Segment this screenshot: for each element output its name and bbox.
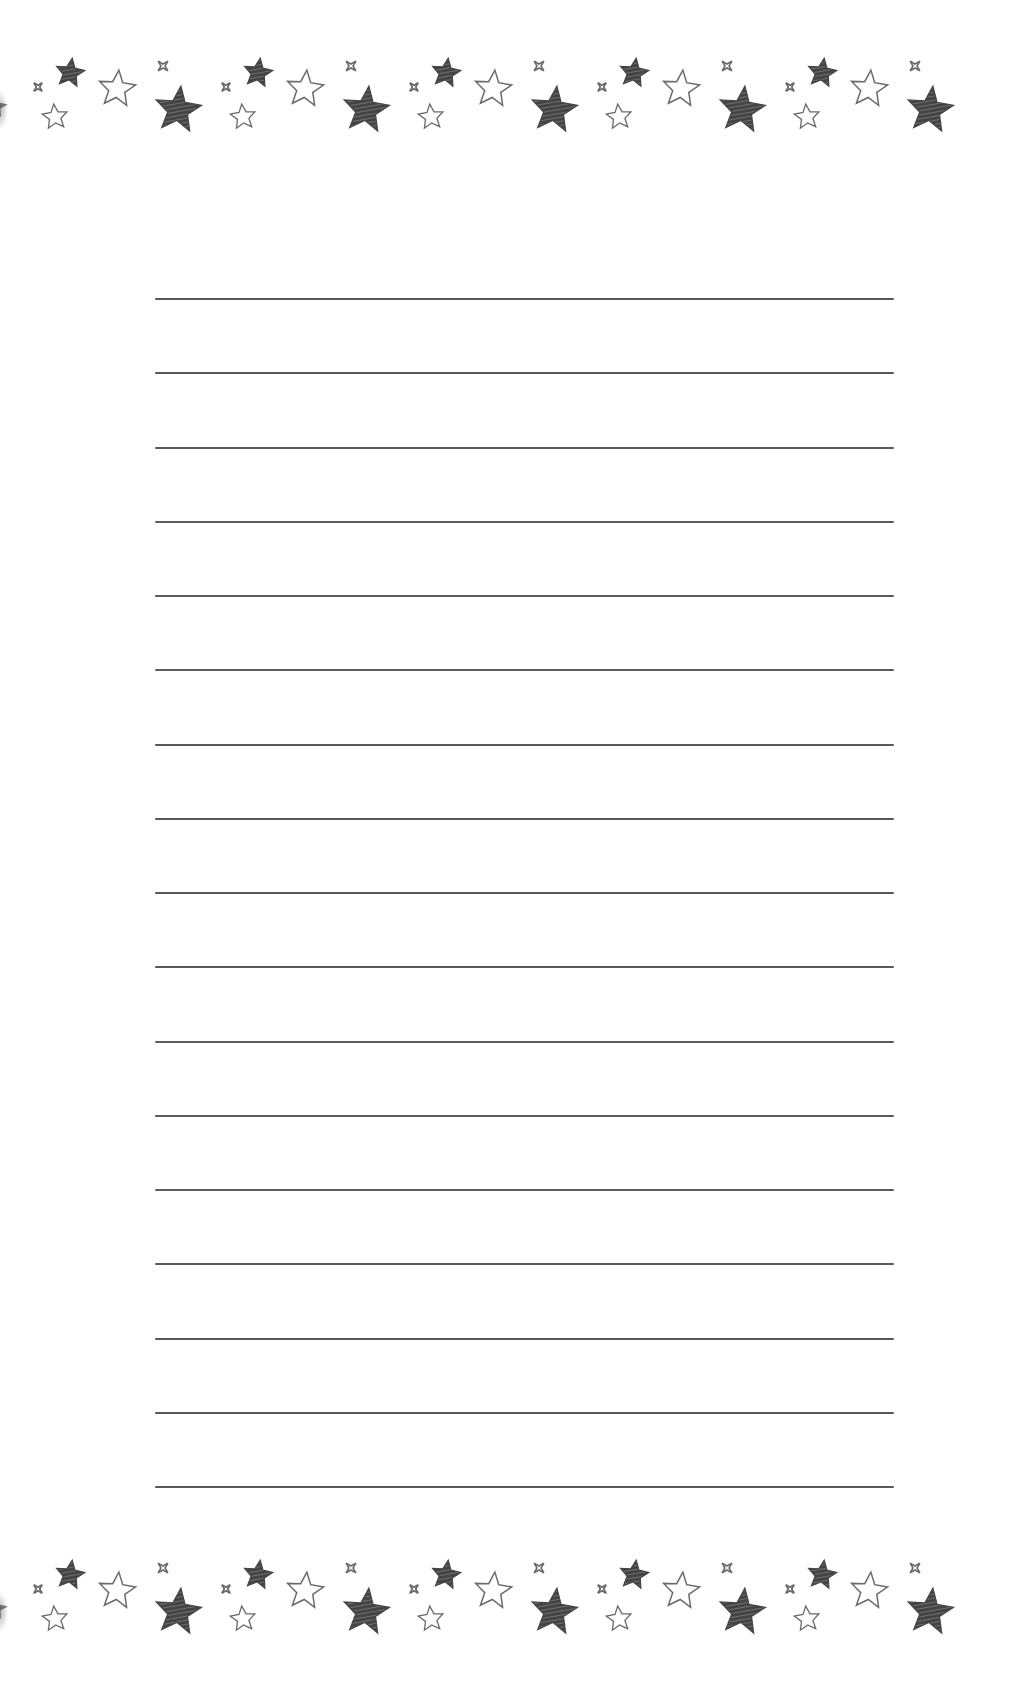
- large-filled-star-icon: [908, 1588, 953, 1633]
- writing-line: [155, 372, 894, 374]
- sparkle-icon: [222, 1585, 230, 1593]
- outline-star-icon: [230, 1606, 255, 1630]
- outline-star-icon: [476, 1572, 512, 1607]
- sparkle-icon: [34, 1585, 42, 1593]
- outline-star-icon: [852, 1572, 888, 1607]
- sparkle-icon: [158, 1563, 168, 1573]
- outline-star-icon: [606, 1606, 631, 1630]
- large-filled-star-icon: [156, 1588, 201, 1633]
- writing-line: [155, 966, 894, 968]
- filled-star-icon: [57, 1560, 85, 1588]
- writing-line: [155, 1041, 894, 1043]
- outline-star-icon: [100, 1572, 136, 1607]
- filled-star-icon: [433, 1560, 461, 1588]
- filled-star-icon: [245, 1560, 273, 1588]
- sparkle-icon: [346, 1563, 356, 1573]
- writing-line: [155, 298, 894, 300]
- sparkle-icon: [534, 1563, 544, 1573]
- writing-line: [155, 744, 894, 746]
- writing-line: [155, 1263, 894, 1265]
- writing-line: [155, 1338, 894, 1340]
- filled-star-icon: [621, 1560, 649, 1588]
- outline-star-icon: [418, 1606, 443, 1630]
- large-filled-star-icon: [344, 1588, 389, 1633]
- sparkle-icon: [722, 1563, 732, 1573]
- sparkle-icon: [598, 1585, 606, 1593]
- outline-star-icon: [664, 1572, 700, 1607]
- writing-line: [155, 892, 894, 894]
- filled-star-icon: [809, 1560, 837, 1588]
- sparkle-icon: [910, 1563, 920, 1573]
- sparkle-icon: [410, 1585, 418, 1593]
- writing-line: [155, 595, 894, 597]
- writing-lines: [0, 0, 1009, 1693]
- writing-line: [155, 1412, 894, 1414]
- writing-line: [155, 1115, 894, 1117]
- writing-line: [155, 1486, 894, 1488]
- outline-star-icon: [42, 1606, 67, 1630]
- large-filled-star-icon: [720, 1588, 765, 1633]
- writing-line: [155, 447, 894, 449]
- writing-line: [155, 669, 894, 671]
- writing-line: [155, 521, 894, 523]
- large-filled-star-icon: [532, 1588, 577, 1633]
- outline-star-icon: [794, 1606, 819, 1630]
- sparkle-icon: [786, 1585, 794, 1593]
- writing-line: [155, 1189, 894, 1191]
- writing-line: [155, 818, 894, 820]
- bottom-star-border: [0, 1547, 1009, 1657]
- outline-star-icon: [288, 1572, 324, 1607]
- partial-star-icon: [0, 1596, 8, 1619]
